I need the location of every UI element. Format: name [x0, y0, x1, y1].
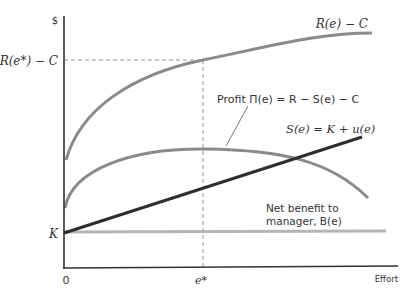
y-tick-k: K — [48, 227, 59, 241]
x-tick-estar: e* — [195, 274, 208, 287]
salary-line-label: S(e) = K + u(e) — [286, 122, 375, 136]
benefit-line — [64, 231, 386, 232]
x-axis-label: Effort — [375, 274, 399, 284]
profit-curve-label: Profit Π(e) = R − S(e) − C — [217, 93, 359, 106]
profit-label-pointer — [226, 106, 248, 146]
principal-agent-diagram: $ R(e*) − C K 0 e* Effort R(e) − C Profi… — [0, 0, 405, 295]
benefit-label-line2: manager, B(e) — [266, 215, 342, 227]
x-axis — [63, 266, 398, 268]
y-axis-label: $ — [52, 15, 58, 26]
y-tick-rec: R(e*) − C — [0, 54, 58, 68]
origin-label: 0 — [63, 274, 70, 287]
benefit-label-line1: Net benefit to — [266, 202, 339, 214]
revenue-curve-label: R(e) − C — [315, 17, 368, 31]
profit-curve — [65, 149, 368, 208]
